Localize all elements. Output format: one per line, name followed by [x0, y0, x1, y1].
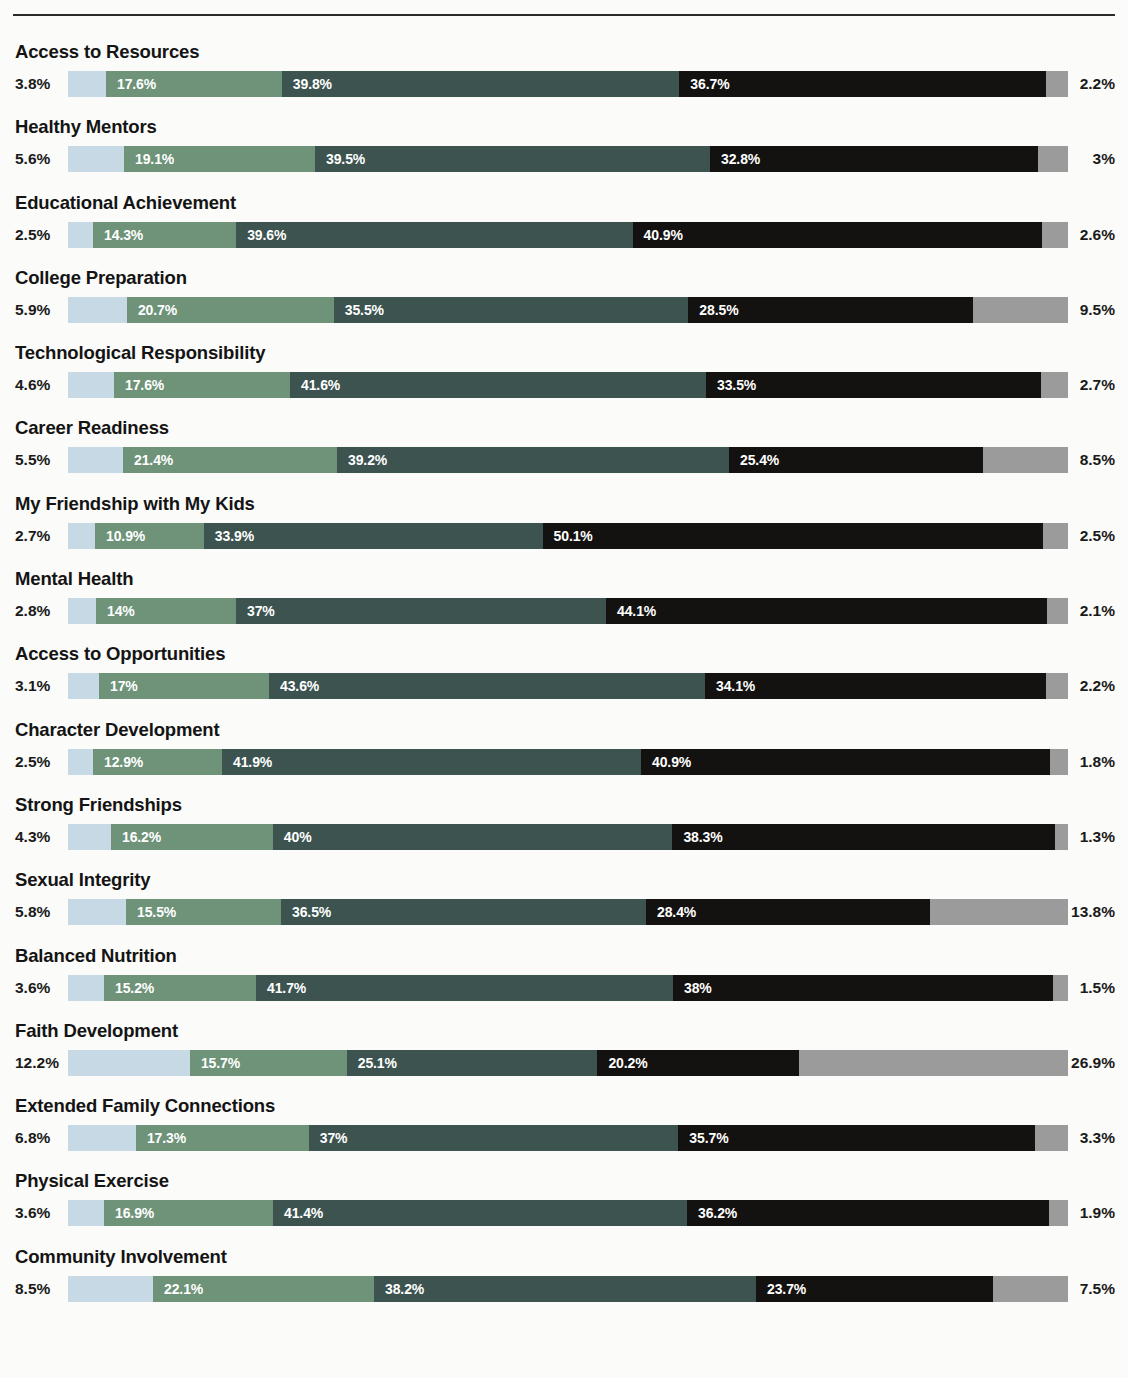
- bar-segment-label: 38.3%: [672, 829, 722, 845]
- chart-row: My Friendship with My Kids2.7%2.7%10.9%3…: [0, 486, 1128, 561]
- chart-row: Career Readiness5.5%5.5%21.4%39.2%25.4%8…: [0, 410, 1128, 485]
- bar-segment-1: 5.5%: [68, 447, 123, 473]
- bar-segment-4: 40.9%: [633, 222, 1042, 248]
- bar-line: 8.5%8.5%22.1%38.2%23.7%7.5%7.5%: [0, 1276, 1128, 1302]
- bar-segment-4: 33.5%: [706, 372, 1041, 398]
- bar-segment-label: 39.8%: [282, 76, 332, 92]
- bar-line: 3.6%3.6%16.9%41.4%36.2%1.9%1.9%: [0, 1200, 1128, 1226]
- right-outside-value: 8.5%: [1080, 447, 1115, 473]
- left-outside-value: 2.5%: [15, 749, 63, 775]
- stacked-bar: 5.5%21.4%39.2%25.4%8.5%: [68, 447, 1068, 473]
- right-outside-value: 2.2%: [1080, 71, 1115, 97]
- bar-segment-2: 17.3%: [136, 1125, 309, 1151]
- bar-segment-4: 38.3%: [672, 824, 1055, 850]
- bar-segment-label: 36.5%: [281, 904, 331, 920]
- row-category-label: Balanced Nutrition: [15, 945, 177, 967]
- chart-rows-container: Access to Resources3.8%3.8%17.6%39.8%36.…: [0, 34, 1128, 1314]
- bar-segment-5: 2.2%: [1046, 71, 1068, 97]
- bar-segment-4: 34.1%: [705, 673, 1046, 699]
- stacked-bar: 3.8%17.6%39.8%36.7%2.2%: [68, 71, 1068, 97]
- stacked-bar: 5.6%19.1%39.5%32.8%3%: [68, 146, 1068, 172]
- bar-segment-1: 3.1%: [68, 673, 99, 699]
- row-category-label: Mental Health: [15, 568, 133, 590]
- left-outside-value: 3.8%: [15, 71, 63, 97]
- bar-segment-label: 20.2%: [597, 1055, 647, 1071]
- bar-segment-label: 15.7%: [190, 1055, 240, 1071]
- bar-segment-label: 41.7%: [256, 980, 306, 996]
- row-category-label: Educational Achievement: [15, 192, 236, 214]
- bar-segment-3: 39.6%: [236, 222, 632, 248]
- bar-segment-label: 40.9%: [641, 754, 691, 770]
- row-category-label: Strong Friendships: [15, 794, 182, 816]
- left-outside-value: 5.9%: [15, 297, 63, 323]
- bar-segment-4: 35.7%: [678, 1125, 1035, 1151]
- chart-row: Faith Development12.2%12.2%15.7%25.1%20.…: [0, 1013, 1128, 1088]
- right-outside-value: 2.6%: [1080, 222, 1115, 248]
- bar-segment-3: 39.2%: [337, 447, 729, 473]
- bar-segment-5: 1.5%: [1053, 975, 1068, 1001]
- bar-segment-label: 33.9%: [204, 528, 254, 544]
- stacked-bar: 12.2%15.7%25.1%20.2%26.9%: [68, 1050, 1068, 1076]
- right-outside-value: 2.2%: [1080, 673, 1115, 699]
- bar-segment-label: 15.5%: [126, 904, 176, 920]
- bar-line: 12.2%12.2%15.7%25.1%20.2%26.9%26.9%: [0, 1050, 1128, 1076]
- bar-segment-2: 15.7%: [190, 1050, 347, 1076]
- right-outside-value: 9.5%: [1080, 297, 1115, 323]
- bar-segment-4: 40.9%: [641, 749, 1050, 775]
- bar-segment-label: 16.9%: [104, 1205, 154, 1221]
- row-category-label: Healthy Mentors: [15, 116, 157, 138]
- stacked-bar: 3.6%15.2%41.7%38%1.5%: [68, 975, 1068, 1001]
- chart-row: Strong Friendships4.3%4.3%16.2%40%38.3%1…: [0, 787, 1128, 862]
- bar-segment-label: 34.1%: [705, 678, 755, 694]
- right-outside-value: 1.5%: [1080, 975, 1115, 1001]
- bar-segment-1: 2.5%: [68, 222, 93, 248]
- bar-segment-label: 41.9%: [222, 754, 272, 770]
- bar-segment-2: 19.1%: [124, 146, 315, 172]
- bar-segment-label: 37%: [309, 1130, 348, 1146]
- row-category-label: Character Development: [15, 719, 220, 741]
- bar-segment-1: 2.7%: [68, 523, 95, 549]
- bar-line: 6.8%6.8%17.3%37%35.7%3.3%3.3%: [0, 1125, 1128, 1151]
- row-category-label: Sexual Integrity: [15, 869, 150, 891]
- chart-row: Access to Opportunities3.1%3.1%17%43.6%3…: [0, 636, 1128, 711]
- bar-segment-5: 9.5%: [973, 297, 1068, 323]
- chart-row: Balanced Nutrition3.6%3.6%15.2%41.7%38%1…: [0, 938, 1128, 1013]
- bar-line: 2.5%2.5%12.9%41.9%40.9%1.8%1.8%: [0, 749, 1128, 775]
- left-outside-value: 8.5%: [15, 1276, 63, 1302]
- row-category-label: Access to Opportunities: [15, 643, 225, 665]
- chart-row: Mental Health2.8%2.8%14%37%44.1%2.1%2.1%: [0, 561, 1128, 636]
- right-outside-value: 3.3%: [1080, 1125, 1115, 1151]
- row-category-label: Physical Exercise: [15, 1170, 169, 1192]
- bar-segment-3: 36.5%: [281, 899, 646, 925]
- right-outside-value: 1.3%: [1080, 824, 1115, 850]
- bar-segment-2: 17.6%: [106, 71, 282, 97]
- bar-segment-label: 17%: [99, 678, 138, 694]
- bar-line: 5.5%5.5%21.4%39.2%25.4%8.5%8.5%: [0, 447, 1128, 473]
- left-outside-value: 3.6%: [15, 1200, 63, 1226]
- bar-segment-label: 25.1%: [347, 1055, 397, 1071]
- row-category-label: Technological Responsibility: [15, 342, 265, 364]
- bar-segment-3: 37%: [309, 1125, 679, 1151]
- right-outside-value: 26.9%: [1071, 1050, 1115, 1076]
- stacked-bar: 8.5%22.1%38.2%23.7%7.5%: [68, 1276, 1068, 1302]
- right-outside-value: 1.9%: [1080, 1200, 1115, 1226]
- bar-segment-4: 32.8%: [710, 146, 1038, 172]
- bar-segment-1: 5.9%: [68, 297, 127, 323]
- bar-segment-1: 3.8%: [68, 71, 106, 97]
- chart-row: Technological Responsibility4.6%4.6%17.6…: [0, 335, 1128, 410]
- bar-segment-4: 36.2%: [687, 1200, 1049, 1226]
- bar-segment-4: 28.5%: [688, 297, 973, 323]
- bar-segment-5: 8.5%: [983, 447, 1068, 473]
- chart-row: Healthy Mentors5.6%5.6%19.1%39.5%32.8%3%…: [0, 109, 1128, 184]
- bar-segment-label: 12.9%: [93, 754, 143, 770]
- bar-segment-label: 38%: [673, 980, 712, 996]
- row-category-label: Extended Family Connections: [15, 1095, 275, 1117]
- left-outside-value: 3.1%: [15, 673, 63, 699]
- bar-line: 2.8%2.8%14%37%44.1%2.1%2.1%: [0, 598, 1128, 624]
- row-category-label: Access to Resources: [15, 41, 199, 63]
- stacked-bar: 5.9%20.7%35.5%28.5%9.5%: [68, 297, 1068, 323]
- bar-line: 3.8%3.8%17.6%39.8%36.7%2.2%2.2%: [0, 71, 1128, 97]
- bar-line: 2.7%2.7%10.9%33.9%50.1%2.5%2.5%: [0, 523, 1128, 549]
- row-category-label: Community Involvement: [15, 1246, 227, 1268]
- bar-segment-label: 37%: [236, 603, 275, 619]
